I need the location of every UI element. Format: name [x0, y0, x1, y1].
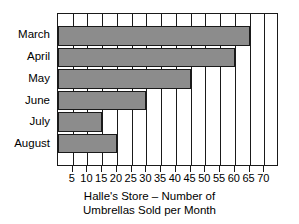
- bar-may: [58, 69, 191, 89]
- y-axis-label-june: June: [0, 89, 54, 111]
- x-axis-tick-labels: 510152025303540455055606570: [57, 172, 278, 186]
- tick-label-50: 50: [198, 172, 210, 185]
- tick-label-15: 15: [95, 172, 107, 185]
- tick-label-25: 25: [125, 172, 137, 185]
- bar-chart-figure: March April May June July August 5101520…: [0, 0, 299, 224]
- y-axis-category-labels: March April May June July August: [0, 13, 54, 166]
- table-row: [58, 25, 277, 47]
- tick-label-5: 5: [69, 172, 75, 185]
- table-row: [58, 133, 277, 155]
- bar-row-top-spacer: [58, 14, 277, 25]
- y-axis-top-spacer: [0, 13, 54, 24]
- chart-caption: Halle's Store – Number of Umbrellas Sold…: [0, 190, 299, 217]
- tick-label-35: 35: [154, 172, 166, 185]
- bar-april: [58, 48, 235, 68]
- plot-area: [57, 13, 278, 166]
- tick-label-60: 60: [228, 172, 240, 185]
- table-row: [58, 90, 277, 112]
- bar-rows: [58, 14, 277, 165]
- y-axis-label-august: August: [0, 133, 54, 155]
- y-axis-label-march: March: [0, 24, 54, 46]
- y-axis-bottom-spacer: [0, 155, 54, 166]
- tick-label-40: 40: [169, 172, 181, 185]
- tick-label-10: 10: [80, 172, 92, 185]
- y-axis-label-may: May: [0, 68, 54, 90]
- bar-june: [58, 91, 146, 111]
- bar-august: [58, 134, 117, 154]
- table-row: [58, 47, 277, 69]
- tick-label-55: 55: [213, 172, 225, 185]
- bar-march: [58, 26, 250, 46]
- y-axis-label-april: April: [0, 46, 54, 68]
- tick-label-45: 45: [183, 172, 195, 185]
- chart-caption-line-2: Umbrellas Sold per Month: [0, 204, 299, 218]
- table-row: [58, 111, 277, 133]
- chart-caption-line-1: Halle's Store – Number of: [0, 190, 299, 204]
- plot-inner: [58, 14, 277, 165]
- tick-label-30: 30: [139, 172, 151, 185]
- y-axis-label-july: July: [0, 111, 54, 133]
- tick-label-20: 20: [110, 172, 122, 185]
- table-row: [58, 68, 277, 90]
- tick-label-70: 70: [257, 172, 269, 185]
- tick-label-65: 65: [242, 172, 254, 185]
- bar-july: [58, 112, 102, 132]
- bar-row-bottom-spacer: [58, 154, 277, 165]
